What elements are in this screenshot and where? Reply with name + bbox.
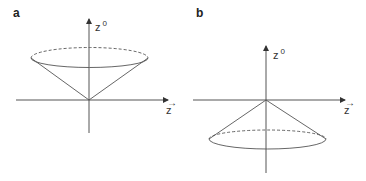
panel-label-b: b bbox=[196, 6, 203, 20]
vertical-axis-label-b: z0 bbox=[273, 47, 286, 61]
vector-arrow-a: → bbox=[167, 97, 177, 108]
cone-rim-front-b bbox=[209, 139, 326, 149]
panel-label-a: a bbox=[13, 6, 20, 20]
cone-rim-back-b bbox=[209, 130, 326, 139]
cone-edge-right-a bbox=[89, 58, 148, 100]
panel-b: b z0 z → bbox=[193, 6, 355, 173]
cone-edge-left-a bbox=[31, 58, 89, 100]
cone-edge-right-b bbox=[266, 100, 326, 139]
panel-a: a z0 z → bbox=[13, 6, 177, 133]
cone-edge-left-b bbox=[209, 100, 266, 139]
vertical-axis-label-a: z0 bbox=[95, 19, 108, 33]
vector-arrow-b: → bbox=[345, 97, 355, 108]
light-cone-figure: a z0 z → b z0 z → bbox=[0, 0, 366, 181]
